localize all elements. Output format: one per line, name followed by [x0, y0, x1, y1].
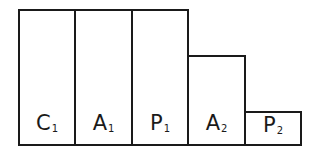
block-letter: P [150, 111, 163, 135]
block-p2: P2 [244, 111, 302, 146]
block-letter: P [263, 113, 276, 137]
block-p1-label: P1 [133, 111, 187, 139]
block-a2-label: A2 [189, 111, 244, 139]
block-a1: A1 [74, 9, 133, 146]
block-p2-label: P2 [246, 113, 300, 141]
block-subscript: 1 [52, 123, 58, 134]
block-subscript: 2 [277, 125, 283, 136]
block-subscript: 2 [221, 123, 227, 134]
block-letter: C [36, 111, 51, 135]
block-letter: A [93, 111, 107, 135]
block-c1: C1 [18, 9, 76, 146]
block-a1-label: A1 [76, 111, 131, 139]
block-p1: P1 [131, 9, 189, 146]
block-c1-label: C1 [20, 111, 74, 139]
block-a2: A2 [187, 55, 246, 146]
block-subscript: 1 [108, 123, 114, 134]
block-subscript: 1 [164, 123, 170, 134]
block-letter: A [206, 111, 220, 135]
